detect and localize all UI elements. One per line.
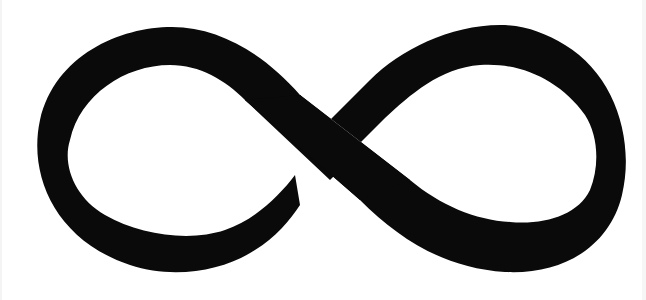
infinity-image	[0, 0, 646, 300]
left-edge-shade	[0, 0, 2, 300]
right-edge-shade	[642, 0, 646, 300]
infinity-icon	[0, 0, 646, 300]
